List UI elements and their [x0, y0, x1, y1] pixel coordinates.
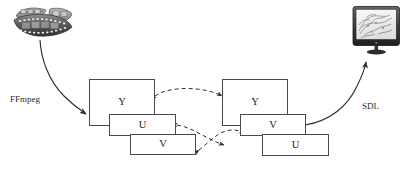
diagram-vector-layer: [0, 0, 403, 172]
monitor-icon: [353, 7, 400, 55]
arrow-ffmpeg: [40, 40, 86, 114]
diagram-canvas: Y U V Y V U FFmpeg SDL: [0, 0, 403, 172]
left-plane-u-box[interactable]: U: [109, 114, 176, 136]
left-plane-y-label: Y: [118, 97, 126, 108]
film-strip-icon: [14, 8, 72, 36]
sdl-label: SDL: [362, 101, 379, 111]
arrow-y-to-y: [155, 89, 222, 97]
right-plane-u-label: U: [292, 140, 300, 151]
left-plane-v-label: V: [159, 139, 167, 150]
ffmpeg-label: FFmpeg: [10, 94, 40, 104]
right-plane-y-label: Y: [251, 97, 259, 108]
arrow-v-to-u: [199, 130, 240, 150]
left-plane-v-box[interactable]: V: [130, 134, 196, 155]
left-plane-u-label: U: [139, 120, 147, 131]
right-plane-u-box[interactable]: U: [262, 134, 329, 156]
arrow-sdl: [305, 62, 366, 125]
right-plane-v-label: V: [269, 120, 277, 131]
right-plane-v-box[interactable]: V: [240, 114, 306, 136]
